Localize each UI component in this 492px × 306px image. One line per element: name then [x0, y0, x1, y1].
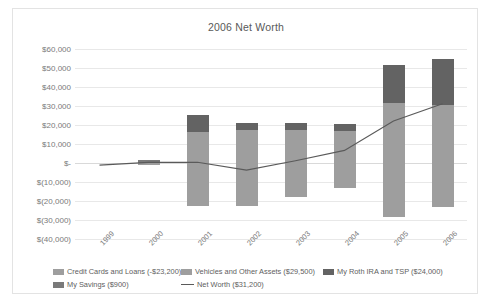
- legend-label: Credit Cards and Loans (-$23,200): [67, 267, 181, 276]
- y-axis-labels: $60,000$50,000$40,000$30,000$20,000$10,0…: [13, 49, 71, 239]
- y-axis-tick-label: $40,000: [42, 83, 71, 92]
- y-axis-tick-label: $(30,000): [37, 216, 71, 225]
- legend-item[interactable]: My Savings ($900): [53, 280, 129, 289]
- legend-row: My Savings ($900)Net Worth ($31,200): [13, 280, 479, 293]
- legend-color-swatch: [181, 269, 192, 275]
- legend-label: Net Worth ($31,200): [197, 280, 264, 289]
- y-axis-tick-label: $(10,000): [37, 178, 71, 187]
- legend-item[interactable]: Vehicles and Other Assets ($29,500): [181, 267, 315, 276]
- net-worth-line: [100, 104, 443, 170]
- legend-label: My Savings ($900): [67, 280, 129, 289]
- gridline: [75, 239, 467, 240]
- y-axis-tick-label: $60,000: [42, 45, 71, 54]
- net-worth-line-series: [75, 49, 467, 239]
- legend-item[interactable]: My Roth IRA and TSP ($24,000): [323, 267, 443, 276]
- y-axis-tick-label: $30,000: [42, 102, 71, 111]
- y-axis-tick-label: $(40,000): [37, 235, 71, 244]
- legend-color-swatch: [53, 269, 64, 275]
- legend-item[interactable]: Net Worth ($31,200): [181, 280, 264, 289]
- legend-color-swatch: [53, 282, 64, 288]
- legend-color-swatch: [323, 269, 334, 275]
- y-axis-tick-label: $50,000: [42, 64, 71, 73]
- plot-area: [75, 49, 467, 239]
- y-axis-tick-label: $20,000: [42, 121, 71, 130]
- legend-label: Vehicles and Other Assets ($29,500): [195, 267, 315, 276]
- legend-line-swatch: [181, 284, 194, 285]
- y-axis-tick-label: $-: [64, 159, 71, 168]
- legend-row: Credit Cards and Loans (-$23,200)Vehicle…: [13, 267, 479, 280]
- y-axis-tick-label: $(20,000): [37, 197, 71, 206]
- legend-label: My Roth IRA and TSP ($24,000): [337, 267, 443, 276]
- chart-title: 2006 Net Worth: [13, 21, 479, 33]
- y-axis-tick-label: $10,000: [42, 140, 71, 149]
- chart-card: 2006 Net Worth $60,000$50,000$40,000$30,…: [12, 8, 478, 294]
- legend-item[interactable]: Credit Cards and Loans (-$23,200): [53, 267, 181, 276]
